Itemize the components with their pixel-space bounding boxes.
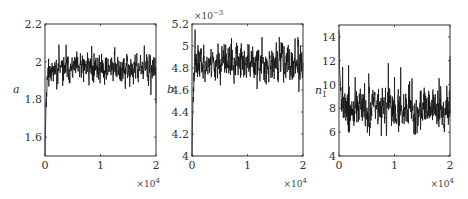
y-tick-label: 4.4 bbox=[172, 106, 190, 119]
y-axis-label: a bbox=[13, 83, 20, 96]
y-tick-label: 5 bbox=[182, 40, 189, 53]
y-tick-label: 1.8 bbox=[25, 93, 43, 106]
y-tick-label: 14 bbox=[322, 31, 336, 44]
y-tick-label: 12 bbox=[322, 55, 336, 68]
y-tick-label: 1.6 bbox=[25, 131, 43, 144]
trace-plot-a: 0121.61.822.2a×104 bbox=[0, 0, 160, 199]
axes-frame bbox=[192, 24, 303, 156]
y-tick-label: 5.2 bbox=[172, 18, 190, 31]
x-tick-label: 1 bbox=[97, 159, 104, 172]
trace-plot-n1: 012468101214n1×104 bbox=[306, 0, 468, 199]
x-tick-label: 2 bbox=[447, 159, 454, 172]
x-axis-multiplier: ×104 bbox=[431, 177, 455, 189]
trace-panel-n1: 012468101214n1×104 bbox=[306, 0, 468, 199]
y-tick-label: 2.2 bbox=[25, 18, 43, 31]
y-axis-multiplier: ×10−3 bbox=[194, 9, 223, 21]
trace-line bbox=[339, 30, 450, 135]
x-axis-multiplier: ×104 bbox=[284, 177, 308, 189]
y-tick-label: 6 bbox=[329, 126, 336, 139]
axes-frame bbox=[45, 24, 156, 156]
x-tick-label: 0 bbox=[336, 159, 343, 172]
y-tick-label: 8 bbox=[329, 102, 336, 115]
x-tick-label: 1 bbox=[391, 159, 398, 172]
y-tick-label: 4.2 bbox=[172, 128, 190, 141]
trace-panel-b: 01244.24.44.64.855.2b×104×10−3 bbox=[156, 0, 312, 199]
y-tick-label: 2 bbox=[35, 56, 42, 69]
x-tick-label: 1 bbox=[244, 159, 251, 172]
trace-plot-b: 01244.24.44.64.855.2b×104×10−3 bbox=[156, 0, 312, 199]
y-tick-label: 4.6 bbox=[172, 84, 190, 97]
y-tick-label: 4.8 bbox=[172, 62, 190, 75]
trace-line bbox=[45, 45, 156, 156]
y-tick-label: 4 bbox=[182, 150, 189, 163]
y-tick-label: 4 bbox=[329, 150, 336, 163]
x-tick-label: 0 bbox=[42, 159, 49, 172]
trace-panel-a: 0121.61.822.2a×104 bbox=[0, 0, 160, 199]
x-tick-label: 0 bbox=[189, 159, 196, 172]
y-axis-label: b bbox=[167, 83, 174, 96]
trace-line bbox=[192, 30, 303, 157]
